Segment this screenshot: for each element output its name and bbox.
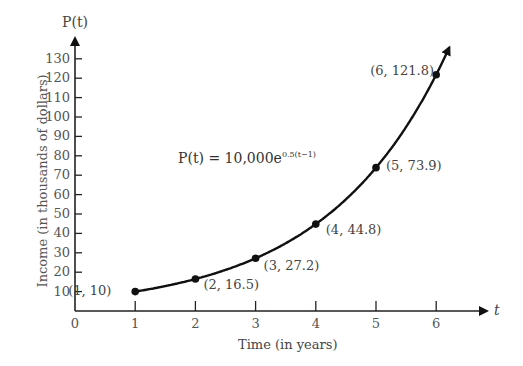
y-tick-label: 100 <box>40 109 70 124</box>
x-tick-label: 0 <box>65 316 85 331</box>
point-label: (6, 121.8) <box>370 63 434 78</box>
y-tick-label: 10 <box>40 284 70 299</box>
x-ticks <box>135 301 436 311</box>
point-label: (4, 44.8) <box>326 222 382 237</box>
chart-canvas <box>0 0 523 366</box>
y-tick-label: 90 <box>40 128 70 143</box>
y-tick-label: 80 <box>40 148 70 163</box>
point-label: (1, 10) <box>68 283 111 298</box>
x-axis-label: Time (in years) <box>238 337 337 352</box>
y-tick-label: 120 <box>40 70 70 85</box>
x-tick-label: 2 <box>185 316 205 331</box>
formula-exponent: 0.5(t−1) <box>282 150 316 159</box>
y-tick-label: 60 <box>40 187 70 202</box>
y-tick-label: 20 <box>40 264 70 279</box>
formula-lhs: P(t) = 10,000e <box>178 150 282 166</box>
point-label: (2, 16.5) <box>203 277 259 292</box>
y-tick-label: 70 <box>40 167 70 182</box>
y-tick-label: 40 <box>40 225 70 240</box>
x-tick-label: 4 <box>306 316 326 331</box>
y-tick-label: 50 <box>40 206 70 221</box>
y-ticks <box>75 59 82 292</box>
x-tick-label: 6 <box>426 316 446 331</box>
x-axis-name: t <box>494 302 500 318</box>
point-label: (3, 27.2) <box>264 258 320 273</box>
x-tick-label: 1 <box>125 316 145 331</box>
y-tick-label: 130 <box>40 51 70 66</box>
y-tick-label: 110 <box>40 90 70 105</box>
x-tick-label: 3 <box>246 316 266 331</box>
y-axis-name: P(t) <box>62 14 88 30</box>
x-tick-label: 5 <box>366 316 386 331</box>
point-label: (5, 73.9) <box>386 158 442 173</box>
formula: P(t) = 10,000e0.5(t−1) <box>178 150 316 166</box>
y-tick-label: 30 <box>40 245 70 260</box>
